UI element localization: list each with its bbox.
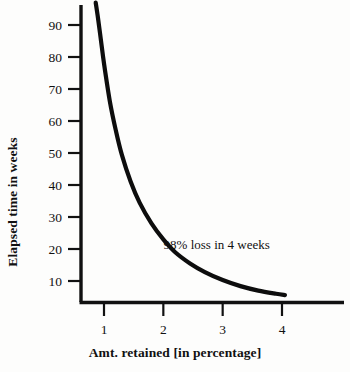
y-tick-label: 80 [49, 50, 63, 65]
y-tick-label: 30 [49, 210, 63, 225]
chart-figure: Elapsed time in weeks 102030405060708090… [0, 0, 350, 372]
y-tick-label: 10 [49, 274, 63, 289]
y-tick-label: 20 [49, 242, 63, 257]
x-tick-label: 3 [219, 322, 226, 337]
x-tick-label: 4 [279, 322, 286, 337]
y-tick-label: 70 [49, 82, 63, 97]
y-tick-label: 90 [49, 18, 63, 33]
x-tick-label: 1 [101, 322, 108, 337]
chart-annotation: 98% loss in 4 weeks [164, 237, 270, 252]
x-tick-group: 1234 [101, 302, 286, 337]
x-axis-title-text: Amt. retained [in percentage] [89, 345, 262, 360]
y-tick-label: 60 [49, 114, 63, 129]
plot-area: 102030405060708090 1234 98% loss in 4 we… [0, 0, 350, 372]
y-tick-group: 102030405060708090 [49, 18, 82, 289]
x-axis-title: Amt. retained [in percentage] [0, 345, 350, 361]
y-tick-label: 50 [49, 146, 63, 161]
y-tick-label: 40 [49, 178, 63, 193]
x-tick-label: 2 [160, 322, 167, 337]
